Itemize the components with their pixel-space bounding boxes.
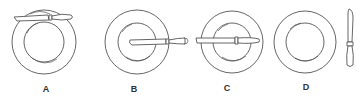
knife-icon xyxy=(14,12,73,22)
knife-icon xyxy=(196,37,260,44)
option-label-c: C xyxy=(224,83,231,93)
option-d xyxy=(274,9,353,73)
option-label-d: D xyxy=(303,82,310,92)
option-b xyxy=(105,10,185,74)
option-label-b: B xyxy=(131,84,138,94)
plate-icon xyxy=(274,11,336,73)
knife-icon xyxy=(347,9,354,67)
option-a xyxy=(12,10,76,74)
knife-icon xyxy=(129,38,185,45)
option-label-a: A xyxy=(43,84,50,94)
option-c xyxy=(184,11,263,73)
